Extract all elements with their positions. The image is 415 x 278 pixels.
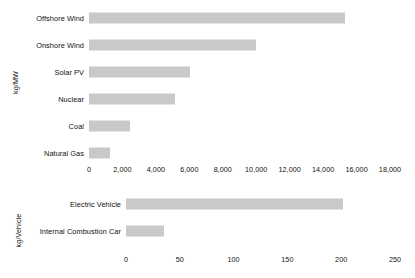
bar-group-top: Offshore WindOnshore WindSolar PVNuclear… xyxy=(0,4,415,166)
bar-category-label: Solar PV xyxy=(0,67,84,76)
bar-category-label: Natural Gas xyxy=(0,148,84,157)
x-axis-tick-label: 16,000 xyxy=(345,165,367,174)
bar-category-label: Nuclear xyxy=(0,94,84,103)
x-axis-tick-label: 2,000 xyxy=(113,165,131,174)
x-axis-top: 02,0004,0006,0008,00010,00012,00014,0001… xyxy=(0,165,415,179)
chart-panel-bottom: kg/Vehicle Electric VehicleInternal Comb… xyxy=(0,186,415,278)
bar xyxy=(89,93,175,104)
chart-panel-top: kg/MW Offshore WindOnshore WindSolar PVN… xyxy=(0,0,415,182)
bar-category-label: Onshore Wind xyxy=(0,40,84,49)
bar-category-label: Coal xyxy=(0,121,84,130)
figure: kg/MW Offshore WindOnshore WindSolar PVN… xyxy=(0,0,415,278)
bar-row: Natural Gas xyxy=(0,139,415,166)
x-axis-tick-label: 50 xyxy=(176,255,184,264)
bar-row: Nuclear xyxy=(0,85,415,112)
x-axis-bottom: 050100150200250 xyxy=(0,255,415,269)
x-axis-tick-label: 250 xyxy=(389,255,401,264)
bar xyxy=(89,39,256,50)
bar-group-bottom: Electric VehicleInternal Combustion Car xyxy=(0,190,415,244)
bar xyxy=(126,225,164,236)
x-axis-tick-label: 200 xyxy=(335,255,347,264)
x-axis-tick-label: 6,000 xyxy=(180,165,198,174)
bar xyxy=(89,147,110,158)
bar xyxy=(89,12,345,23)
bar xyxy=(89,66,190,77)
x-axis-tick-label: 0 xyxy=(124,255,128,264)
x-axis-tick-label: 14,000 xyxy=(312,165,334,174)
x-axis-tick-label: 10,000 xyxy=(245,165,267,174)
bar-row: Internal Combustion Car xyxy=(0,217,415,244)
x-axis-tick-label: 100 xyxy=(228,255,240,264)
x-axis-tick-label: 150 xyxy=(281,255,293,264)
bar-category-label: Electric Vehicle xyxy=(0,199,121,208)
bar-category-label: Internal Combustion Car xyxy=(0,226,121,235)
bar-row: Coal xyxy=(0,112,415,139)
x-axis-tick-label: 4,000 xyxy=(147,165,165,174)
x-axis-tick-label: 18,000 xyxy=(379,165,401,174)
bar xyxy=(89,120,130,131)
x-axis-tick-label: 0 xyxy=(87,165,91,174)
x-axis-tick-label: 8,000 xyxy=(214,165,232,174)
bar-row: Electric Vehicle xyxy=(0,190,415,217)
bar-row: Solar PV xyxy=(0,58,415,85)
bar-row: Onshore Wind xyxy=(0,31,415,58)
bar-category-label: Offshore Wind xyxy=(0,13,84,22)
x-axis-tick-label: 12,000 xyxy=(279,165,301,174)
bar xyxy=(126,198,343,209)
bar-row: Offshore Wind xyxy=(0,4,415,31)
